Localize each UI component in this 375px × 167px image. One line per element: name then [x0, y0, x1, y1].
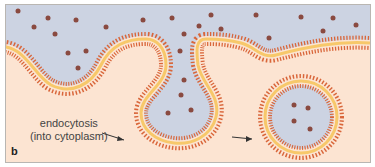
endocytosis-diagram-panel: endocytosis (into cytoplasm) b: [5, 4, 371, 163]
label-line-1: endocytosis: [30, 117, 108, 130]
panel-letter: b: [11, 145, 18, 157]
label-line-2: (into cytoplasm): [30, 130, 108, 143]
endocytosis-label: endocytosis (into cytoplasm): [30, 117, 108, 143]
